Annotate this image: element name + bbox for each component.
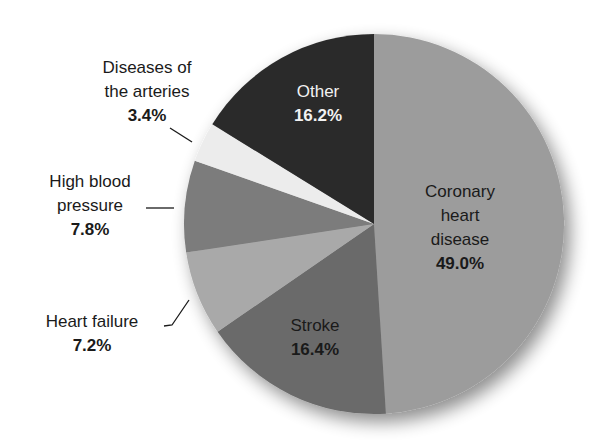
label-heart-failure: Heart failure 7.2% [32, 310, 152, 358]
label-high-blood-pressure: High blood pressure 7.8% [30, 170, 150, 242]
label-stroke: Stroke 16.4% [265, 314, 365, 362]
label-coronary-heart-disease: Coronary heart disease 49.0% [400, 180, 520, 276]
leader-line-heart-failure [164, 300, 189, 326]
label-diseases-of-the-arteries: Diseases of the arteries 3.4% [87, 56, 207, 128]
label-other: Other 16.2% [268, 80, 368, 128]
leader-line-arteries [170, 128, 192, 142]
